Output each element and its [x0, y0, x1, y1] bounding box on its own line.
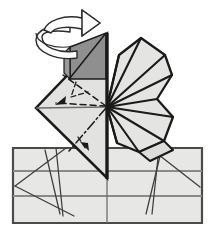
- origami-svg-canvas: Origami folding step diagram Technical o…: [0, 0, 215, 238]
- origami-diagram-figure: Origami folding step diagram Technical o…: [0, 0, 215, 238]
- kite-horizontal-crease: [36, 107, 107, 108]
